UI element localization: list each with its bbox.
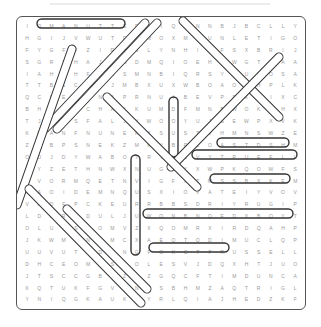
title-placeholder — [50, 3, 270, 5]
highlight-overlay — [17, 17, 305, 309]
word-search-board: IOMANUTTEDEIQWNNBJBCLLYHGIJVWUTFKMOXMVUN… — [16, 16, 306, 310]
found-word-russellwestbrook — [143, 209, 293, 218]
found-word-row2 — [192, 150, 297, 159]
found-word-kemit — [217, 138, 289, 147]
found-word-vertical-2 — [131, 155, 140, 255]
found-word-manuttede — [37, 19, 125, 28]
found-word-olajuwon — [210, 174, 290, 183]
found-word-vertical-1 — [169, 97, 178, 157]
found-word-timduncan — [149, 243, 229, 252]
